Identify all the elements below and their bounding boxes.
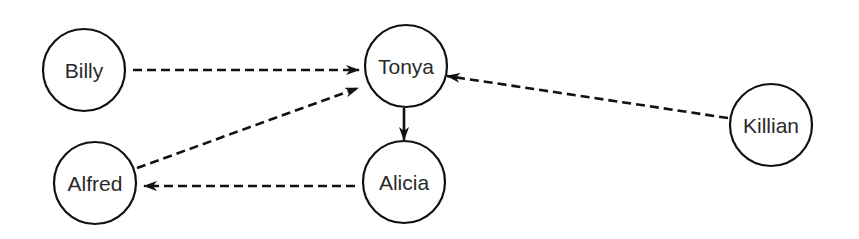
graph-diagram: BillyTonyaAlfredAliciaKillian [0, 0, 859, 239]
node-label: Billy [65, 59, 104, 82]
node-alfred: Alfred [54, 142, 136, 224]
node-alicia: Alicia [363, 141, 445, 223]
node-tonya: Tonya [365, 25, 447, 107]
node-killian: Killian [730, 84, 812, 166]
node-label: Killian [743, 114, 799, 137]
node-label: Alfred [68, 172, 123, 195]
nodes-layer: BillyTonyaAlfredAliciaKillian [43, 25, 812, 224]
graph-svg: BillyTonyaAlfredAliciaKillian [0, 0, 859, 239]
node-label: Tonya [378, 55, 434, 78]
node-billy: Billy [43, 29, 125, 111]
node-label: Alicia [379, 171, 430, 194]
edge-killian-to-tonya [447, 76, 728, 118]
edge-alfred-to-tonya [137, 88, 358, 168]
